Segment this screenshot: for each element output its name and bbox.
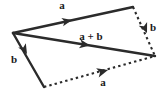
- vector-a-top-label: a: [59, 0, 65, 11]
- vector-a-plus-b-label: a + b: [79, 30, 102, 42]
- vector-addition-diagram: a b b a a + b: [0, 0, 166, 96]
- vector-a-bottom-label: a: [100, 76, 106, 88]
- vector-b-right-label: b: [150, 21, 156, 33]
- vector-b-left-label: b: [11, 53, 17, 65]
